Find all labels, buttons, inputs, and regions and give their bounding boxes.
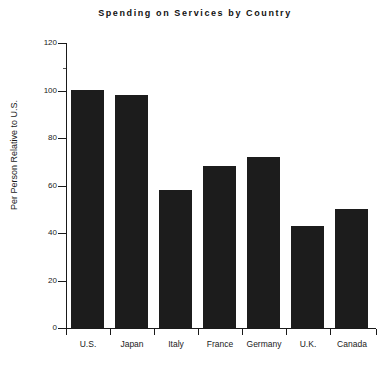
x-tick-label-france: France — [198, 340, 242, 349]
x-tick-label-italy: Italy — [154, 340, 198, 349]
x-tick-5 — [286, 329, 287, 335]
bar-france[interactable] — [203, 166, 236, 328]
bar-italy[interactable] — [159, 190, 192, 328]
bar-chart: Spending on Services by Country Per Pers… — [0, 0, 390, 371]
bar-us[interactable] — [71, 90, 104, 328]
bar-germany[interactable] — [247, 157, 280, 328]
y-axis-title: Per Person Relative to U.S. — [9, 25, 19, 285]
x-tick-0 — [66, 329, 67, 335]
x-tick-end — [376, 329, 377, 335]
x-tick-2 — [154, 329, 155, 335]
y-tick-label-120: 120 — [29, 39, 57, 47]
y-tick-label-40: 40 — [29, 229, 57, 237]
bar-canada[interactable] — [335, 209, 368, 328]
bar-uk[interactable] — [291, 226, 324, 328]
x-tick-label-germany: Germany — [242, 340, 286, 349]
chart-title: Spending on Services by Country — [0, 8, 390, 18]
x-tick-6 — [330, 329, 331, 335]
bar-japan[interactable] — [115, 95, 148, 328]
y-tick-label-0: 0 — [29, 324, 57, 332]
y-tick-label-100: 100 — [29, 87, 57, 95]
x-tick-1 — [110, 329, 111, 335]
plot-area — [66, 43, 376, 328]
y-tick-label-20: 20 — [29, 277, 57, 285]
y-tick-label-80: 80 — [29, 134, 57, 142]
x-tick-label-us: U.S. — [66, 340, 110, 349]
x-tick-label-canada: Canada — [330, 340, 374, 349]
x-tick-label-japan: Japan — [110, 340, 154, 349]
x-tick-3 — [198, 329, 199, 335]
x-tick-label-uk: U.K. — [286, 340, 330, 349]
x-tick-4 — [242, 329, 243, 335]
y-tick-label-60: 60 — [29, 182, 57, 190]
